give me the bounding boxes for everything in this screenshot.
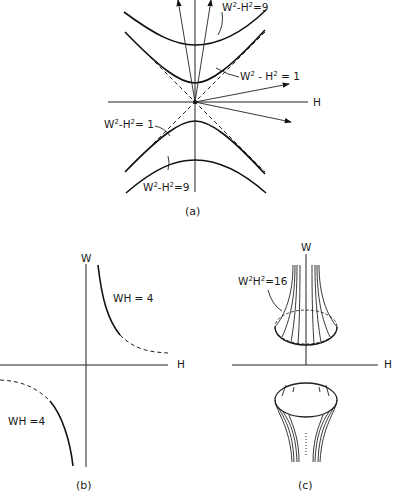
leader-line xyxy=(268,290,282,311)
label-lower-outer: W2-H2=9 xyxy=(143,181,190,193)
lower-surface xyxy=(275,383,337,462)
panel-c: W H xyxy=(232,241,392,492)
leader-line xyxy=(218,12,223,35)
lower-rim xyxy=(275,383,337,417)
origin-point xyxy=(193,100,197,104)
caption-a: (a) xyxy=(185,205,200,218)
label-upper-outer: W2-H2=9 xyxy=(222,1,269,13)
label-wh-upper: WH = 4 xyxy=(113,292,154,304)
hyperbola-wh-4-upper-dashed xyxy=(120,335,168,353)
leader-line xyxy=(155,126,170,136)
ray-vector xyxy=(195,84,289,102)
w-axis-label: W xyxy=(81,252,92,264)
w-axis-label: W xyxy=(301,241,312,253)
label-upper-inner: W2 - H2 = 1 xyxy=(240,70,300,82)
caption-b: (b) xyxy=(76,479,92,492)
ray-vector xyxy=(195,102,291,122)
label-w2h2-16: W2H2=16 xyxy=(238,275,288,287)
label-lower-inner: W2-H2= 1 xyxy=(104,118,154,130)
h-axis-label: H xyxy=(313,96,321,108)
ray-vector xyxy=(195,0,211,102)
hyperbola-wh-4-lower xyxy=(50,401,73,466)
h-axis-label: H xyxy=(384,358,392,370)
panel-b: W H WH = 4 WH =4 (b) xyxy=(0,252,185,492)
h-axis-label: H xyxy=(177,358,185,370)
label-wh-lower: WH =4 xyxy=(8,415,45,427)
ray-vector xyxy=(178,0,195,102)
caption-c: (c) xyxy=(298,479,313,492)
figure-canvas: W2-H2=9 W2 - H2 = 1 W2-H2= 1 W2-H2=9 H (… xyxy=(0,0,401,495)
leader-line xyxy=(168,156,169,170)
hyperbola-wh-4-lower-dashed xyxy=(0,380,50,401)
panel-a: W2-H2=9 W2 - H2 = 1 W2-H2= 1 W2-H2=9 H (… xyxy=(104,0,321,218)
